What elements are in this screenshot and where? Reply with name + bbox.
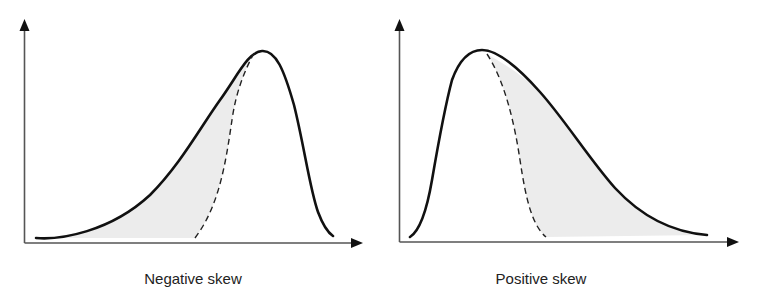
panel-positive-skew: Positive skew bbox=[395, 19, 740, 287]
negative-skew-x-arrow-icon bbox=[351, 238, 363, 248]
positive-skew-shaded-area bbox=[487, 54, 707, 237]
negative-skew-label: Negative skew bbox=[144, 270, 242, 287]
positive-skew-label: Positive skew bbox=[496, 270, 587, 287]
skew-diagram: Negative skew Positive skew bbox=[0, 0, 759, 297]
positive-skew-x-arrow-icon bbox=[727, 237, 739, 247]
negative-skew-y-arrow-icon bbox=[20, 19, 30, 31]
negative-skew-shaded-area bbox=[36, 53, 254, 238]
positive-skew-y-arrow-icon bbox=[395, 19, 405, 31]
panel-negative-skew: Negative skew bbox=[20, 19, 364, 287]
